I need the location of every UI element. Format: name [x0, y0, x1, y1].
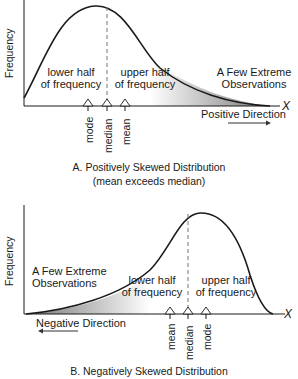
extreme-observations-label: A Few ExtremeObservations: [32, 265, 107, 289]
mode-marker-icon: [83, 99, 93, 111]
panel-a-plot: [24, 0, 280, 126]
upper-half-label: upper halfof frequency: [110, 66, 180, 90]
median-marker-icon: [102, 99, 112, 111]
subcaption-a: (mean exceeds median): [0, 175, 298, 187]
mean-label: mean: [165, 324, 177, 350]
direction-label: Positive Direction: [201, 108, 286, 120]
extreme-observations-label: A Few ExtremeObservations: [214, 66, 294, 90]
mean-marker-icon: [165, 307, 175, 319]
mean-marker-icon: [120, 99, 130, 111]
mode-label: mode: [201, 324, 213, 350]
caption-a: A. Positively Skewed Distribution: [0, 161, 298, 173]
upper-half-label: upper halfof frequency: [192, 274, 260, 298]
lower-half-label: lower halfof frequency: [118, 274, 186, 298]
y-axis-label: Frequency: [3, 236, 15, 286]
mean-label: mean: [120, 119, 132, 145]
direction-label: Negative Direction: [36, 317, 126, 329]
median-label: median: [183, 326, 195, 360]
mode-marker-icon: [201, 307, 211, 319]
y-axis-label: Frequency: [3, 28, 15, 78]
caption-b: B. Negatively Skewed Distribution: [0, 365, 298, 377]
median-marker-icon: [183, 307, 193, 319]
distribution-curve: [24, 6, 270, 106]
median-label: median: [102, 119, 114, 153]
x-axis-label: X: [284, 308, 292, 320]
lower-half-label: lower halfof frequency: [38, 66, 104, 90]
mode-label: mode: [83, 117, 95, 143]
